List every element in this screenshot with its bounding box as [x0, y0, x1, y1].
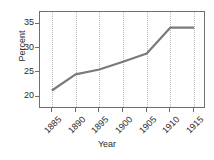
- series-percent: [40, 12, 206, 109]
- x-tick-mark-1910: [169, 108, 170, 112]
- x-tick-mark-1895: [98, 108, 99, 112]
- series-line-percent: [52, 28, 194, 91]
- x-axis-label: Year: [0, 139, 214, 149]
- x-tick-mark-1900: [122, 108, 123, 112]
- x-tick-label-1885: 1885: [14, 115, 63, 160]
- y-axis-label: Percent: [17, 16, 27, 76]
- line-chart: 20253035 Percent 18851890189519001905191…: [0, 0, 214, 160]
- x-tick-mark-1915: [193, 108, 194, 112]
- y-tick-label-20: 20: [0, 91, 34, 100]
- plot-area: [39, 11, 205, 108]
- x-tick-mark-1890: [75, 108, 76, 112]
- x-tick-mark-1905: [146, 108, 147, 112]
- x-tick-mark-1885: [51, 108, 52, 112]
